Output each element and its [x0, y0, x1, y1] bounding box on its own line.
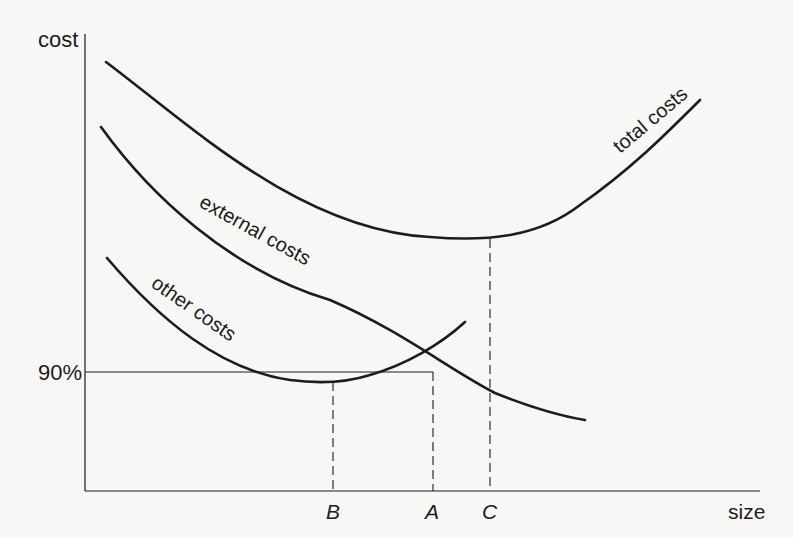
- marker-label-b: B: [326, 500, 340, 523]
- other-costs-label: other costs: [148, 271, 241, 345]
- cost-size-diagram: cost size 90% total costs external costs…: [0, 0, 793, 538]
- total-costs-curve: [106, 62, 700, 239]
- external-costs-label: external costs: [196, 190, 315, 269]
- marker-label-a: A: [423, 500, 439, 523]
- external-costs-curve: [101, 127, 585, 420]
- x-axis-label: size: [728, 500, 765, 523]
- ninety-percent-label: 90%: [38, 360, 82, 385]
- y-axis-label: cost: [38, 27, 78, 52]
- marker-label-c: C: [482, 500, 498, 523]
